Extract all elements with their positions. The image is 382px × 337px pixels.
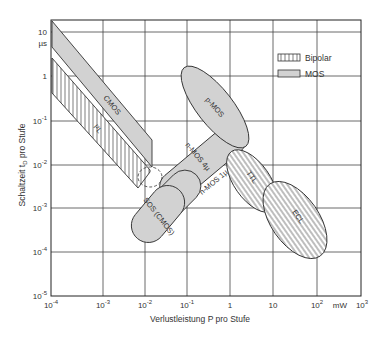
x-tick: 103 [356,299,369,310]
y-tick: 1 [43,72,48,81]
y-tick: 10-2 [33,159,48,170]
legend: Bipolar MOS [278,53,332,79]
x-tick: 10-4 [44,299,59,310]
x-axis-ticks: 10-4 10-3 10-2 10-1 1 10 102 mW 103 [44,299,369,310]
y-tick: 10-4 [33,246,48,257]
y-tick: 10-5 [33,290,48,301]
y-tick: 10-1 [33,115,48,126]
x-unit: mW [333,301,348,310]
y-axis-ticks: 10 µs 1 10-1 10-2 10-3 10-4 10-5 [33,28,48,301]
legend-label-bipolar: Bipolar [305,53,332,63]
x-tick: 1 [228,301,233,310]
x-tick: 102 [311,299,324,310]
legend-label-mos: MOS [305,69,325,79]
legend-swatch-mos [278,70,300,77]
x-tick: 10-2 [138,299,153,310]
y-axis-title: Schaltzeit tD pro Stufe [17,123,28,206]
x-tick: 10-3 [96,299,111,310]
x-tick: 10-1 [180,299,195,310]
x-tick: 10 [269,301,278,310]
y-unit: µs [38,39,47,48]
legend-swatch-bipolar [278,54,300,61]
chart-regions: Bipolar MOS CMOS I²L p-MOS n-MOS 4µ n-MO… [0,0,382,337]
y-tick: 10-3 [33,202,48,213]
y-tick: 10 [38,28,47,37]
x-axis-title: Verlustleistung P pro Stufe [150,314,250,324]
